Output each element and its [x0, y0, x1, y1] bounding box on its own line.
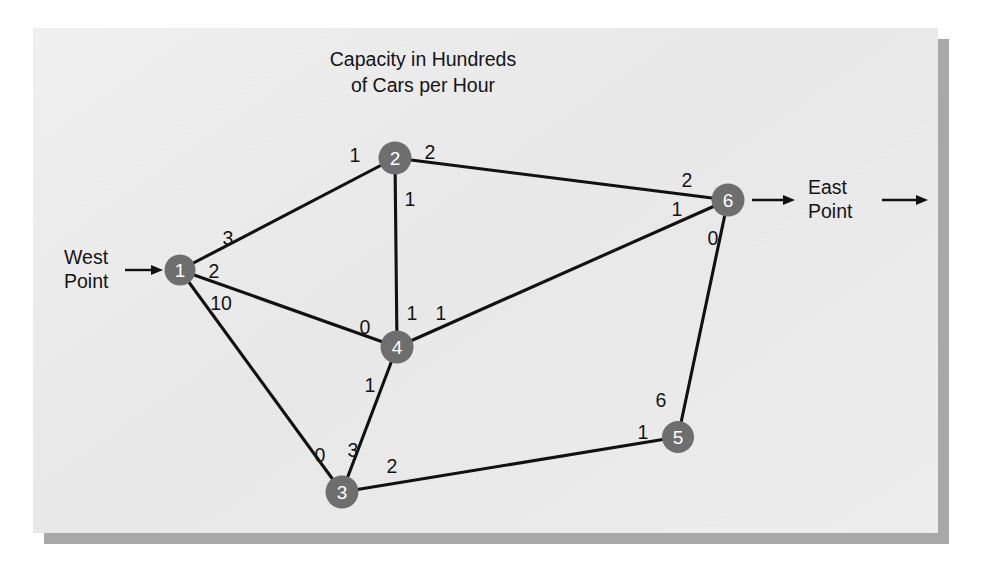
node-label-6: 6	[723, 190, 734, 211]
node-label-1: 1	[175, 260, 186, 281]
west-point-label-line2: Point	[64, 270, 109, 292]
capacity-label-2-6-from: 2	[425, 141, 436, 163]
east-point-inbound-arrow-icon	[752, 195, 795, 205]
capacity-label-1-3-from: 10	[210, 292, 232, 314]
nodes-layer: 123456	[165, 142, 745, 509]
east-point-outbound-arrow-icon	[882, 195, 928, 205]
capacity-label-1-2-from: 3	[223, 227, 234, 249]
diagram-page: Capacity in Hundreds of Cars per Hour We…	[0, 0, 985, 569]
node-label-2: 2	[390, 148, 401, 169]
edge-2-4	[395, 158, 397, 347]
node-6[interactable]: 6	[712, 184, 745, 217]
node-5[interactable]: 5	[662, 421, 694, 453]
network-flow-diagram: Capacity in Hundreds of Cars per Hour We…	[0, 0, 985, 569]
node-1[interactable]: 1	[165, 255, 196, 286]
chart-title-line2: of Cars per Hour	[351, 74, 496, 96]
edge-1-2	[180, 158, 395, 270]
node-label-4: 4	[392, 337, 403, 358]
node-label-5: 5	[673, 427, 684, 448]
capacity-label-1-4-to: 0	[360, 316, 371, 338]
edge-2-6	[395, 158, 728, 200]
node-label-3: 3	[337, 482, 348, 503]
capacity-label-1-2-to: 1	[350, 144, 361, 166]
node-2[interactable]: 2	[379, 142, 412, 175]
west-point-label-line1: West	[64, 246, 109, 268]
capacity-label-3-5-from: 2	[387, 455, 398, 477]
capacity-label-5-6-from: 6	[656, 389, 667, 411]
capacity-label-2-4-to: 1	[407, 302, 418, 324]
node-4[interactable]: 4	[381, 331, 414, 364]
capacity-label-4-6-to: 1	[672, 198, 683, 220]
edge-5-6	[678, 200, 728, 437]
edge-4-6	[397, 200, 728, 347]
capacity-labels-layer: 3120100112211132160	[209, 141, 719, 477]
capacity-label-1-3-to: 0	[315, 444, 326, 466]
capacity-label-3-5-to: 1	[638, 421, 649, 443]
capacity-label-2-4-from: 1	[405, 188, 416, 210]
capacity-label-1-4-from: 2	[209, 260, 220, 282]
capacity-label-2-6-to: 2	[682, 169, 693, 191]
capacity-label-4-6-from: 1	[436, 302, 447, 324]
capacity-label-4-3-to: 3	[348, 439, 359, 461]
node-3[interactable]: 3	[326, 476, 359, 509]
east-point-label-line1: East	[808, 176, 848, 198]
capacity-label-4-3-from: 1	[365, 374, 376, 396]
east-point-label-line2: Point	[808, 200, 853, 222]
west-point-arrow-icon	[125, 265, 163, 275]
chart-title-line1: Capacity in Hundreds	[330, 48, 517, 70]
capacity-label-5-6-to: 0	[708, 227, 719, 249]
